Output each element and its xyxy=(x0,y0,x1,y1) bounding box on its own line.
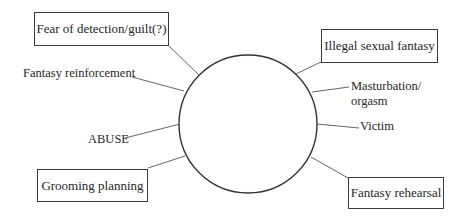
connector-reinforcement xyxy=(132,77,184,91)
connector-grooming xyxy=(148,156,185,168)
node-label: Illegal sexual fantasy xyxy=(324,38,434,54)
node-label: Fantasy rehearsal xyxy=(351,185,442,201)
node-label-line2: orgasm xyxy=(351,94,421,109)
connector-fear xyxy=(168,45,199,75)
node-fantasy-rehearsal: Fantasy rehearsal xyxy=(348,177,444,209)
connector-rehearsal xyxy=(311,157,348,178)
abuse-cycle-diagram: Fear of detection/guilt(?) Illegal sexua… xyxy=(0,0,465,224)
cycle-circle xyxy=(179,55,317,193)
node-grooming-planning: Grooming planning xyxy=(37,169,148,202)
node-label: Grooming planning xyxy=(41,178,143,194)
connector-abuse xyxy=(125,124,180,138)
node-label-line1: Masturbation/ xyxy=(351,79,421,94)
connector-illegal xyxy=(296,62,321,74)
node-illegal-sexual-fantasy: Illegal sexual fantasy xyxy=(321,29,438,63)
connector-victim xyxy=(317,124,359,128)
node-abuse: ABUSE xyxy=(88,132,129,147)
node-label: Fear of detection/guilt(?) xyxy=(37,21,167,37)
node-masturbation-orgasm: Masturbation/ orgasm xyxy=(351,79,421,109)
connector-masturbation xyxy=(312,87,349,92)
node-victim: Victim xyxy=(360,119,394,134)
node-fantasy-reinforcement: Fantasy reinforcement xyxy=(23,66,135,81)
node-fear-of-detection: Fear of detection/guilt(?) xyxy=(34,12,169,46)
